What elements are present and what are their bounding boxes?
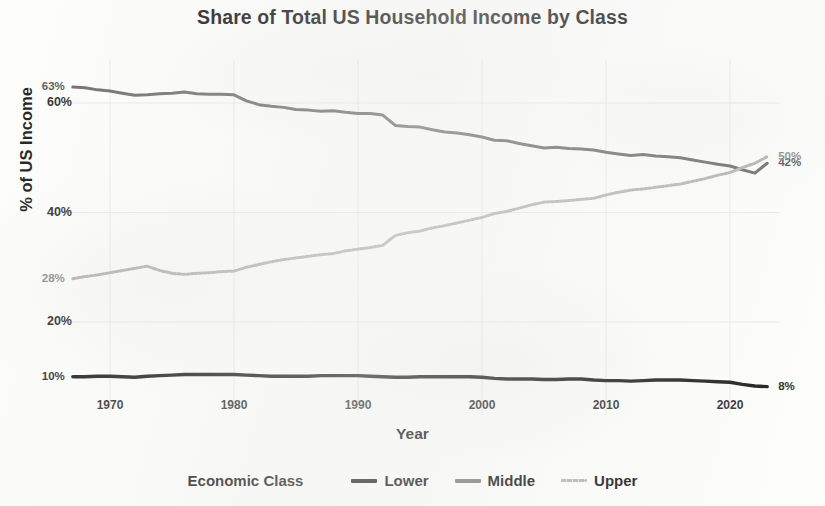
- legend-swatch-upper: [561, 479, 587, 482]
- legend-label-lower: Lower: [384, 472, 428, 489]
- x-axis-tick-label: 1980: [204, 398, 264, 412]
- series-lines: [73, 87, 767, 386]
- legend-item-upper[interactable]: Upper: [561, 472, 637, 489]
- x-axis-tick-label: 1990: [328, 398, 388, 412]
- end-value-label-lower: 8%: [778, 380, 824, 392]
- x-axis-tick-label: 2020: [700, 398, 760, 412]
- start-value-label-middle: 63%: [19, 80, 65, 92]
- start-value-label-lower: 10%: [19, 370, 65, 382]
- x-axis-tick-label: 2000: [452, 398, 512, 412]
- legend-swatch-middle: [455, 479, 481, 483]
- legend-item-middle[interactable]: Middle: [455, 472, 536, 489]
- chart-legend: Economic Class LowerMiddleUpper: [0, 472, 825, 489]
- plot-area: [0, 0, 825, 506]
- end-value-label-upper: 50%: [778, 150, 824, 162]
- legend-label-upper: Upper: [594, 472, 637, 489]
- gridlines: [69, 59, 780, 415]
- legend-label-middle: Middle: [488, 472, 536, 489]
- x-axis-tick-label: 1970: [80, 398, 140, 412]
- series-line-upper: [73, 157, 767, 279]
- chart-container: Share of Total US Household Income by Cl…: [0, 0, 825, 506]
- x-axis-tick-label: 2010: [576, 398, 636, 412]
- series-line-lower: [73, 375, 767, 387]
- y-axis-tick-label: 40%: [18, 205, 72, 219]
- legend-items: LowerMiddleUpper: [351, 472, 637, 489]
- start-value-label-upper: 28%: [19, 272, 65, 284]
- legend-title: Economic Class: [188, 472, 304, 489]
- legend-item-lower[interactable]: Lower: [351, 472, 428, 489]
- y-axis-tick-label: 20%: [18, 314, 72, 328]
- y-axis-tick-label: 60%: [18, 95, 72, 109]
- legend-swatch-lower: [351, 479, 377, 483]
- series-line-middle: [73, 87, 767, 173]
